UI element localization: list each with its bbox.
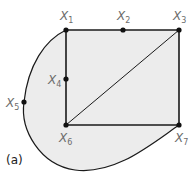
node-x3 <box>176 27 181 32</box>
node-x2 <box>120 27 125 32</box>
label-x3: X3 <box>172 9 186 25</box>
node-x5 <box>21 99 26 104</box>
label-x5: X5 <box>5 96 19 112</box>
node-x4 <box>63 76 68 81</box>
shaded-region <box>23 30 179 171</box>
label-x2: X2 <box>116 9 130 25</box>
node-x1 <box>63 27 68 32</box>
node-x6 <box>63 122 68 127</box>
caption: (a) <box>6 153 23 167</box>
graph-diagram: X1 X2 X3 X4 X5 X6 X7 (a) <box>0 0 190 181</box>
label-x1: X1 <box>59 9 73 25</box>
label-x7: X7 <box>174 131 188 147</box>
node-x7 <box>176 122 181 127</box>
